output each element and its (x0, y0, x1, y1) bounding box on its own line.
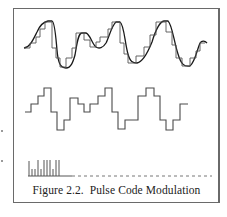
edge-mark (1, 130, 3, 132)
figure-caption: Figure 2.2. Pulse Code Modulation (13, 184, 220, 196)
edge-mark (1, 160, 3, 162)
quantized-staircase-waveform (25, 88, 188, 130)
quantized-panel (25, 88, 188, 130)
sampled-staircase (24, 22, 205, 67)
pulse-train-panel (28, 160, 212, 176)
analog-signal-panel (24, 21, 207, 68)
analog-waveform (24, 21, 207, 68)
